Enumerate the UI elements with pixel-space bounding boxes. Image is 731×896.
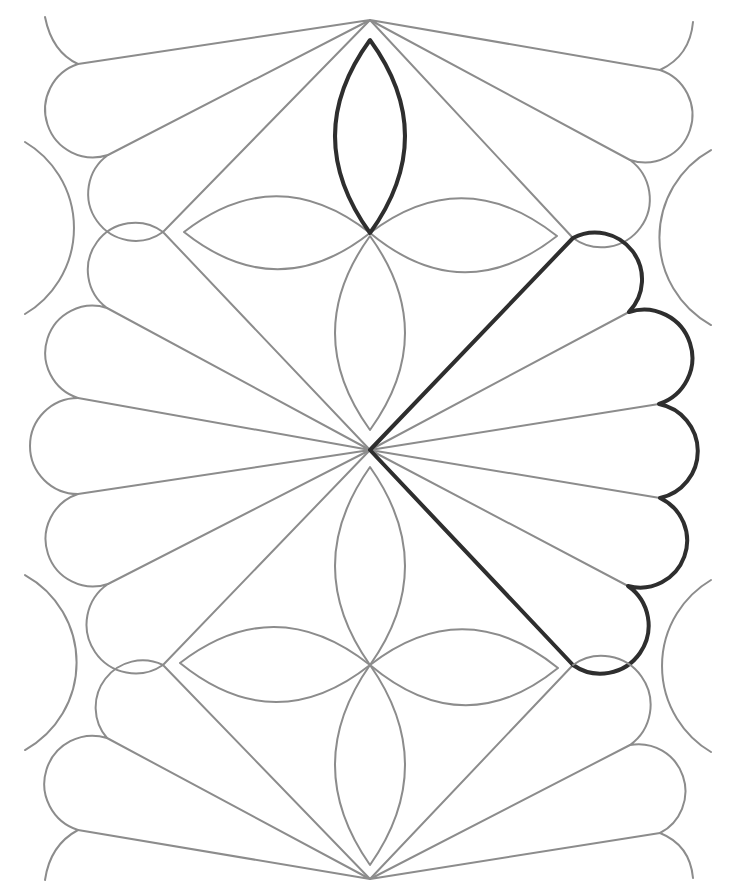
diagram-canvas [0, 0, 731, 896]
